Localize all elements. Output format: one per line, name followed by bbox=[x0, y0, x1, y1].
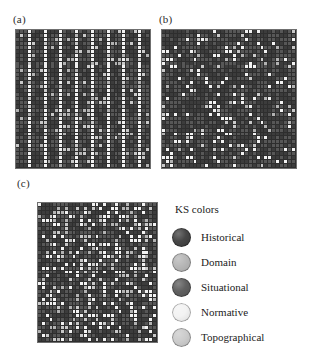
legend-swatch-historical bbox=[172, 228, 191, 247]
legend-label-topographical: Topographical bbox=[201, 331, 264, 344]
legend-item-domain: Domain bbox=[168, 250, 306, 275]
legend-item-historical: Historical bbox=[168, 225, 306, 250]
panel-a-grid bbox=[16, 30, 150, 168]
legend-item-normative: Normative bbox=[168, 300, 306, 325]
legend-title: KS colors bbox=[175, 203, 306, 216]
legend-item-situational: Situational bbox=[168, 275, 306, 300]
legend-label-situational: Situational bbox=[201, 281, 249, 294]
legend-label-historical: Historical bbox=[201, 231, 244, 244]
legend-swatch-normative bbox=[172, 303, 191, 322]
panel-c-canvas bbox=[38, 203, 157, 342]
panel-b-grid bbox=[162, 30, 296, 168]
legend-swatch-domain bbox=[172, 253, 191, 272]
legend-label-domain: Domain bbox=[201, 256, 236, 269]
panel-c-grid bbox=[38, 203, 157, 342]
panel-b-canvas bbox=[162, 30, 296, 168]
panel-label-a: (a) bbox=[13, 13, 26, 25]
panel-label-b: (b) bbox=[159, 13, 172, 25]
panel-a-canvas bbox=[16, 30, 150, 168]
legend-label-normative: Normative bbox=[201, 306, 248, 319]
panel-label-c: (c) bbox=[17, 177, 30, 189]
ks-colors-legend: KS colors Historical Domain Situational … bbox=[168, 203, 306, 350]
legend-swatch-situational bbox=[172, 278, 191, 297]
legend-swatch-topographical bbox=[172, 328, 191, 347]
figure-root: (a) (b) (c) KS colors Historical Domain … bbox=[0, 0, 309, 352]
legend-item-topographical: Topographical bbox=[168, 325, 306, 350]
